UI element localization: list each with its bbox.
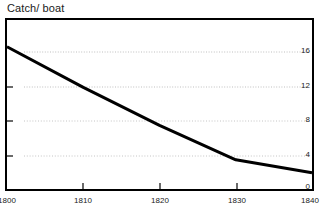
chart-figure: Catch/ boat 16 12 8 4 0	[0, 0, 323, 215]
y-tick-label-8: 8	[292, 115, 310, 124]
y-tick-label-0: 0	[292, 182, 310, 191]
x-tick-label-1810: 1810	[66, 196, 100, 205]
plot-area	[0, 0, 323, 215]
y-tick-label-4: 4	[292, 150, 310, 159]
x-tick-label-1830: 1830	[220, 196, 254, 205]
x-tick-label-1820: 1820	[143, 196, 177, 205]
y-tick-label-16: 16	[292, 46, 310, 55]
y-tick-label-12: 12	[292, 81, 310, 90]
x-tick-label-1840: 1840	[293, 196, 323, 205]
x-tick-label-1800: 1800	[0, 196, 24, 205]
